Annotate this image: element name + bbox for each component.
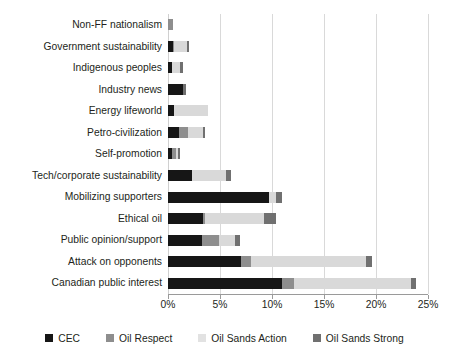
bar-segment [188, 127, 204, 138]
legend-label: Oil Sands Action [211, 333, 287, 344]
category-label: Public opinion/support [61, 229, 162, 251]
chart-legend: CECOil RespectOil Sands ActionOil Sands … [0, 329, 449, 347]
x-axis-ticks: 0%5%10%15%20%25% [168, 295, 428, 311]
bar-segment [168, 235, 202, 246]
bar-segment [294, 278, 412, 289]
bar-segment [168, 213, 203, 224]
bar-row: Industry news [168, 79, 428, 101]
bar-row: Attack on opponents [168, 251, 428, 273]
legend-swatch-icon [198, 334, 206, 342]
bar-segment [180, 62, 182, 73]
bar-segment [168, 256, 241, 267]
category-label: Energy lifeworld [89, 100, 162, 122]
stacked-bar [168, 278, 416, 289]
bar-segment [264, 213, 276, 224]
x-tick-label: 0% [161, 299, 176, 310]
x-tick-label: 5% [213, 299, 228, 310]
stacked-bar [168, 235, 240, 246]
bar-segment [192, 170, 226, 181]
stacked-bar [168, 170, 231, 181]
gridline-25 [428, 14, 429, 294]
plot-area: Non-FF nationalismGovernment sustainabil… [168, 14, 428, 294]
stacked-bar [168, 105, 208, 116]
bar-rows: Non-FF nationalismGovernment sustainabil… [168, 14, 428, 294]
category-label: Ethical oil [118, 208, 162, 230]
bar-row: Non-FF nationalism [168, 14, 428, 36]
category-label: Canadian public interest [52, 272, 162, 294]
stacked-bar [168, 256, 372, 267]
legend-swatch-icon [45, 334, 53, 342]
bar-row: Public opinion/support [168, 229, 428, 251]
bar-segment [269, 192, 276, 203]
bar-segment [366, 256, 372, 267]
legend-item[interactable]: CEC [45, 333, 80, 344]
bar-segment [168, 192, 269, 203]
bar-segment [282, 278, 293, 289]
legend-label: CEC [58, 333, 80, 344]
bar-segment [205, 213, 263, 224]
bar-segment [203, 127, 205, 138]
bar-segment [168, 84, 183, 95]
x-tick-label: 25% [418, 299, 439, 310]
stacked-bar [168, 84, 186, 95]
x-tick-label: 15% [314, 299, 335, 310]
bar-segment [219, 235, 235, 246]
category-label: Tech/corporate sustainability [32, 165, 162, 187]
bar-segment [251, 256, 365, 267]
stacked-bar-chart: Non-FF nationalismGovernment sustainabil… [0, 0, 449, 358]
legend-swatch-icon [106, 334, 114, 342]
legend-item[interactable]: Oil Sands Strong [313, 333, 404, 344]
bar-segment [187, 41, 189, 52]
category-label: Self-promotion [95, 143, 162, 165]
bar-segment [226, 170, 231, 181]
bar-segment [172, 62, 180, 73]
legend-item[interactable]: Oil Sands Action [198, 333, 287, 344]
stacked-bar [168, 62, 183, 73]
category-label: Non-FF nationalism [72, 14, 162, 36]
bar-segment [168, 170, 192, 181]
bar-row: Petro-civilization [168, 122, 428, 144]
category-label: Government sustainability [44, 36, 162, 58]
category-label: Attack on opponents [68, 251, 162, 273]
bar-row: Indigenous peoples [168, 57, 428, 79]
bar-row: Self-promotion [168, 143, 428, 165]
bar-row: Tech/corporate sustainability [168, 165, 428, 187]
x-tick-label: 20% [366, 299, 387, 310]
bar-segment [179, 127, 187, 138]
bar-segment [235, 235, 240, 246]
bar-segment [174, 41, 186, 52]
stacked-bar [168, 19, 173, 30]
category-label: Mobilizing supporters [65, 186, 162, 208]
stacked-bar [168, 213, 276, 224]
category-label: Indigenous peoples [73, 57, 162, 79]
bar-segment [411, 278, 415, 289]
stacked-bar [168, 148, 180, 159]
legend-item[interactable]: Oil Respect [106, 333, 172, 344]
bar-segment [241, 256, 251, 267]
bar-segment [202, 235, 219, 246]
category-label: Industry news [98, 79, 162, 101]
bar-segment [276, 192, 282, 203]
legend-label: Oil Respect [119, 333, 172, 344]
bar-segment [174, 105, 207, 116]
bar-row: Government sustainability [168, 36, 428, 58]
bar-segment [168, 127, 179, 138]
bar-segment [168, 278, 282, 289]
stacked-bar [168, 192, 282, 203]
stacked-bar [168, 127, 205, 138]
bar-row: Canadian public interest [168, 272, 428, 294]
bar-row: Mobilizing supporters [168, 186, 428, 208]
bar-row: Energy lifeworld [168, 100, 428, 122]
bar-segment [168, 19, 173, 30]
bar-segment [183, 84, 186, 95]
bar-row: Ethical oil [168, 208, 428, 230]
stacked-bar [168, 41, 189, 52]
legend-swatch-icon [313, 334, 321, 342]
bar-segment [178, 148, 180, 159]
category-label: Petro-civilization [87, 122, 162, 144]
x-tick-label: 10% [262, 299, 283, 310]
legend-label: Oil Sands Strong [326, 333, 404, 344]
